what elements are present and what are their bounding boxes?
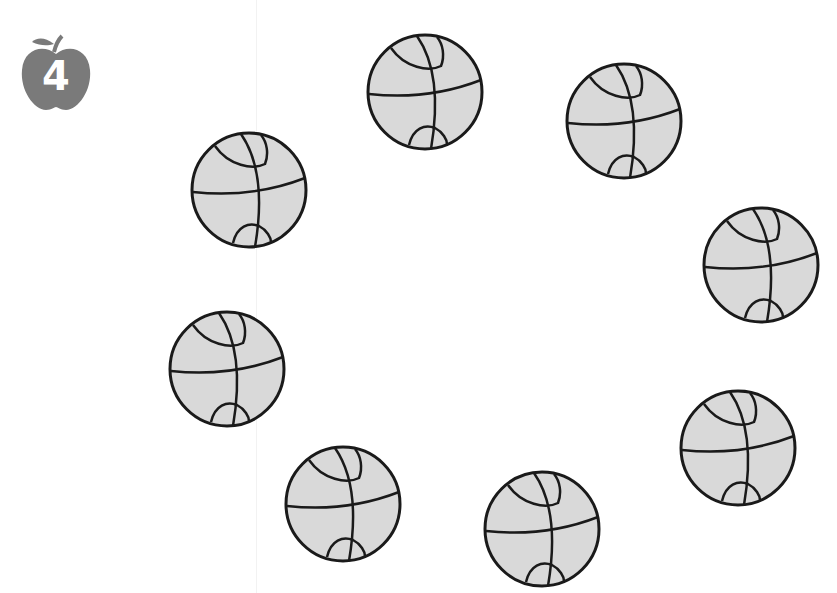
basketball-icon	[167, 309, 287, 429]
basketball-icon	[283, 444, 403, 564]
page-fold-line	[256, 0, 257, 593]
basketball-icon	[365, 32, 485, 152]
number-badge: 4	[14, 48, 98, 104]
basketball-icon	[678, 388, 798, 508]
basketball-icon	[482, 469, 602, 589]
basketball-icon	[189, 130, 309, 250]
basketball-icon	[701, 205, 821, 325]
basketball-icon	[564, 61, 684, 181]
